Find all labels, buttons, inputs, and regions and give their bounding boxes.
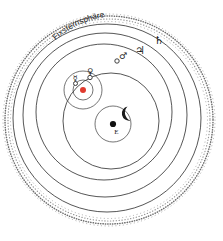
fixed-star-sphere-label: Fixsternsphäre (51, 10, 106, 42)
orbit-jupiter (23, 33, 187, 197)
mars-marker-group: ♂ (115, 51, 127, 64)
fixed-star-sphere-label-text: Fixsternsphäre (51, 10, 106, 42)
orbit-saturn (13, 24, 201, 212)
sun-body-group (80, 87, 86, 93)
mercury-marker-group: ☿ (73, 74, 78, 86)
orbit-mars (36, 44, 172, 180)
earth-dot (110, 121, 116, 127)
venus-glyph: ♀ (87, 67, 93, 76)
venus-marker-group: ♀ (87, 67, 93, 80)
tycho-system-diagram: Fixsternsphäre E ☿ ♀ ♂ (0, 0, 223, 241)
fixed-star-sphere-mid-ring (8, 19, 210, 221)
fixed-star-sphere-group (3, 14, 215, 226)
fixed-star-sphere-far-ring (3, 14, 215, 226)
sun-dot (80, 87, 86, 93)
venus-dot (88, 75, 92, 79)
moon-crescent-icon (122, 107, 131, 121)
tycho-diagram-canvas: Fixsternsphäre E ☿ ♀ ♂ (0, 0, 223, 241)
saturn-marker-group: ♄ (154, 34, 164, 47)
earth-label: E (114, 128, 118, 136)
earth-body-group: E (110, 121, 119, 136)
moon-marker-group (122, 107, 131, 121)
jupiter-marker-group: ♃ (135, 44, 145, 57)
fixed-star-sphere-inner-ring (11, 22, 208, 219)
jupiter-glyph: ♃ (135, 44, 145, 57)
orbit-sun-around-earth (63, 73, 159, 169)
saturn-glyph: ♄ (154, 34, 164, 47)
mars-glyph: ♂ (119, 51, 127, 61)
mercury-glyph: ☿ (73, 74, 78, 83)
